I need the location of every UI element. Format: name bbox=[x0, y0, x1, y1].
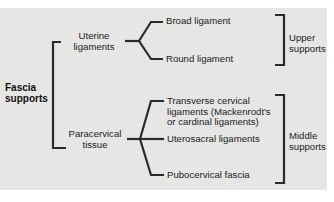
root-label-line2: supports bbox=[5, 93, 48, 104]
round-ligament-label: Round ligament bbox=[166, 54, 233, 65]
upper-supports-bracket bbox=[275, 15, 284, 65]
upper-line2: supports bbox=[289, 44, 326, 55]
root-label-line1: Fascia bbox=[5, 82, 48, 93]
upper-line1: Upper bbox=[289, 33, 326, 44]
root-label: Fascia supports bbox=[5, 82, 48, 104]
middle-supports-label: Middle supports bbox=[289, 131, 326, 152]
paracervical-line1: Paracervical bbox=[64, 129, 126, 140]
uterosacral-ligaments-label: Uterosacral ligaments bbox=[167, 134, 260, 145]
fork-uterine-lower bbox=[139, 41, 163, 59]
middle-supports-bracket bbox=[275, 95, 284, 183]
upper-supports-label: Upper supports bbox=[289, 33, 326, 54]
pubocervical-fascia-label: Pubocervical fascia bbox=[167, 170, 250, 181]
paracervical-tissue-label: Paracervical tissue bbox=[64, 129, 126, 150]
transverse-cervical-label: Transverse cervical ligaments (Mackenrod… bbox=[167, 96, 271, 128]
middle-line1: Middle bbox=[289, 131, 326, 142]
transverse-line1: Transverse cervical bbox=[167, 96, 271, 107]
transverse-line3: or cardinal ligaments) bbox=[167, 117, 271, 128]
fork-uterine-upper bbox=[139, 22, 163, 41]
uterine-line1: Uterine bbox=[68, 31, 120, 42]
uterine-ligaments-label: Uterine ligaments bbox=[68, 31, 120, 52]
middle-line2: supports bbox=[289, 142, 326, 153]
fork-paracervical-upper bbox=[140, 101, 164, 139]
paracervical-line2: tissue bbox=[64, 140, 126, 151]
uterine-line2: ligaments bbox=[68, 42, 120, 53]
fork-paracervical-lower bbox=[140, 139, 164, 175]
broad-ligament-label: Broad ligament bbox=[166, 16, 231, 27]
